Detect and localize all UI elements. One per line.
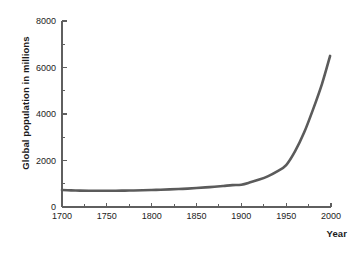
axes-spines: [62, 21, 331, 207]
plot-area: [0, 0, 357, 254]
series-line-0: [62, 56, 330, 191]
data-series-lines: [62, 56, 330, 191]
chart-figure: Global population in millions Year 02000…: [0, 0, 357, 254]
axis-tick-marks: [62, 21, 331, 207]
